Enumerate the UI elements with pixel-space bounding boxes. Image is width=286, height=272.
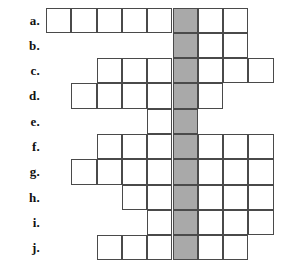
letter-cell[interactable] xyxy=(223,235,248,260)
highlighted-letter-cell[interactable] xyxy=(173,210,198,235)
letter-cell[interactable] xyxy=(122,83,147,108)
letter-cell[interactable] xyxy=(147,235,172,260)
letter-cell[interactable] xyxy=(198,58,223,83)
letter-cell[interactable] xyxy=(46,8,71,33)
crossword-puzzle: a.b.c.d.e.f.g.h.i.j. xyxy=(0,0,286,272)
letter-cell[interactable] xyxy=(122,8,147,33)
letter-cell[interactable] xyxy=(223,58,248,83)
letter-cell[interactable] xyxy=(147,58,172,83)
highlighted-letter-cell[interactable] xyxy=(173,185,198,210)
letter-cell[interactable] xyxy=(71,159,96,184)
letter-cell[interactable] xyxy=(97,159,122,184)
letter-cell[interactable] xyxy=(147,8,172,33)
letter-cell[interactable] xyxy=(147,185,172,210)
highlighted-letter-cell[interactable] xyxy=(173,8,198,33)
answer-row xyxy=(0,58,286,83)
answer-row xyxy=(0,185,286,210)
letter-cell[interactable] xyxy=(248,159,273,184)
answer-row xyxy=(0,235,286,260)
answer-row xyxy=(0,109,286,134)
letter-cell[interactable] xyxy=(198,159,223,184)
letter-cell[interactable] xyxy=(147,134,172,159)
letter-cell[interactable] xyxy=(223,8,248,33)
letter-cell[interactable] xyxy=(122,159,147,184)
letter-cell[interactable] xyxy=(223,185,248,210)
letter-cell[interactable] xyxy=(223,159,248,184)
highlighted-letter-cell[interactable] xyxy=(173,159,198,184)
letter-cell[interactable] xyxy=(71,8,96,33)
letter-cell[interactable] xyxy=(97,83,122,108)
highlighted-letter-cell[interactable] xyxy=(173,83,198,108)
letter-cell[interactable] xyxy=(223,33,248,58)
letter-cell[interactable] xyxy=(198,185,223,210)
letter-cell[interactable] xyxy=(147,83,172,108)
letter-cell[interactable] xyxy=(248,134,273,159)
letter-cell[interactable] xyxy=(147,159,172,184)
letter-cell[interactable] xyxy=(248,58,273,83)
letter-cell[interactable] xyxy=(198,33,223,58)
letter-cell[interactable] xyxy=(147,109,172,134)
letter-cell[interactable] xyxy=(223,210,248,235)
answer-row xyxy=(0,33,286,58)
answer-row xyxy=(0,8,286,33)
letter-cell[interactable] xyxy=(198,235,223,260)
letter-cell[interactable] xyxy=(97,8,122,33)
highlighted-letter-cell[interactable] xyxy=(173,109,198,134)
answer-row xyxy=(0,210,286,235)
letter-cell[interactable] xyxy=(198,210,223,235)
letter-cell[interactable] xyxy=(97,235,122,260)
highlighted-letter-cell[interactable] xyxy=(173,235,198,260)
letter-cell[interactable] xyxy=(198,8,223,33)
answer-row xyxy=(0,159,286,184)
answer-row xyxy=(0,83,286,108)
letter-cell[interactable] xyxy=(248,185,273,210)
letter-cell[interactable] xyxy=(122,185,147,210)
letter-cell[interactable] xyxy=(248,210,273,235)
letter-cell[interactable] xyxy=(223,134,248,159)
highlighted-letter-cell[interactable] xyxy=(173,58,198,83)
answer-row xyxy=(0,134,286,159)
highlighted-letter-cell[interactable] xyxy=(173,33,198,58)
letter-cell[interactable] xyxy=(122,235,147,260)
letter-cell[interactable] xyxy=(198,134,223,159)
letter-cell[interactable] xyxy=(122,134,147,159)
letter-cell[interactable] xyxy=(71,83,96,108)
letter-cell[interactable] xyxy=(122,58,147,83)
letter-cell[interactable] xyxy=(198,83,223,108)
letter-cell[interactable] xyxy=(147,210,172,235)
letter-cell[interactable] xyxy=(97,58,122,83)
letter-cell[interactable] xyxy=(97,134,122,159)
highlighted-letter-cell[interactable] xyxy=(173,134,198,159)
